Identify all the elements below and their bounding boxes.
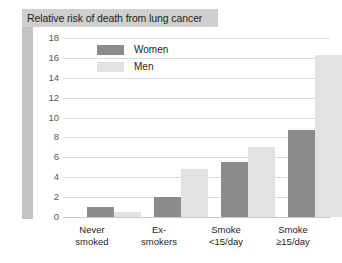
- y-axis-tick-label: 14: [33, 73, 59, 83]
- bar-men-3: [315, 55, 342, 217]
- bar-women-0: [87, 207, 114, 217]
- y-axis-tick-label: 2: [33, 192, 59, 202]
- page-title: Relative risk of death from lung cancer: [27, 12, 202, 24]
- y-axis-tick-label: 8: [33, 133, 59, 143]
- bar-group: [153, 25, 209, 217]
- bar-group: [287, 25, 342, 217]
- x-axis-label-3: Smoke≥15/day: [258, 224, 328, 248]
- y-axis-tick-label: 18: [33, 33, 59, 43]
- chart-screenshot: Relative risk of death from lung cancer …: [0, 0, 342, 263]
- bar-men-1: [181, 169, 208, 217]
- x-axis-label-0: Neversmoked: [57, 224, 127, 248]
- axis-gutter-band: [22, 27, 33, 219]
- bar-women-2: [221, 162, 248, 217]
- y-axis-tick-label: 10: [33, 113, 59, 123]
- x-axis-category-labels: NeversmokedEx-smokersSmoke<15/daySmoke≥1…: [63, 224, 342, 260]
- bars-container: [63, 27, 330, 219]
- y-axis-tick-label: 4: [33, 172, 59, 182]
- bar-men-0: [114, 212, 141, 217]
- x-axis-label-1: Ex-smokers: [124, 224, 194, 248]
- bar-women-1: [154, 197, 181, 217]
- y-axis-tick-label: 16: [33, 53, 59, 63]
- bar-women-3: [288, 130, 315, 218]
- bar-group: [86, 25, 142, 217]
- bar-group: [220, 25, 276, 217]
- bar-men-2: [248, 147, 275, 217]
- plot-area: 024681012141618 WomenMen: [33, 27, 330, 219]
- y-axis-tick-label: 6: [33, 153, 59, 163]
- y-axis-tick-label: 0: [33, 212, 59, 222]
- y-axis-tick-label: 12: [33, 93, 59, 103]
- x-axis-label-2: Smoke<15/day: [191, 224, 261, 248]
